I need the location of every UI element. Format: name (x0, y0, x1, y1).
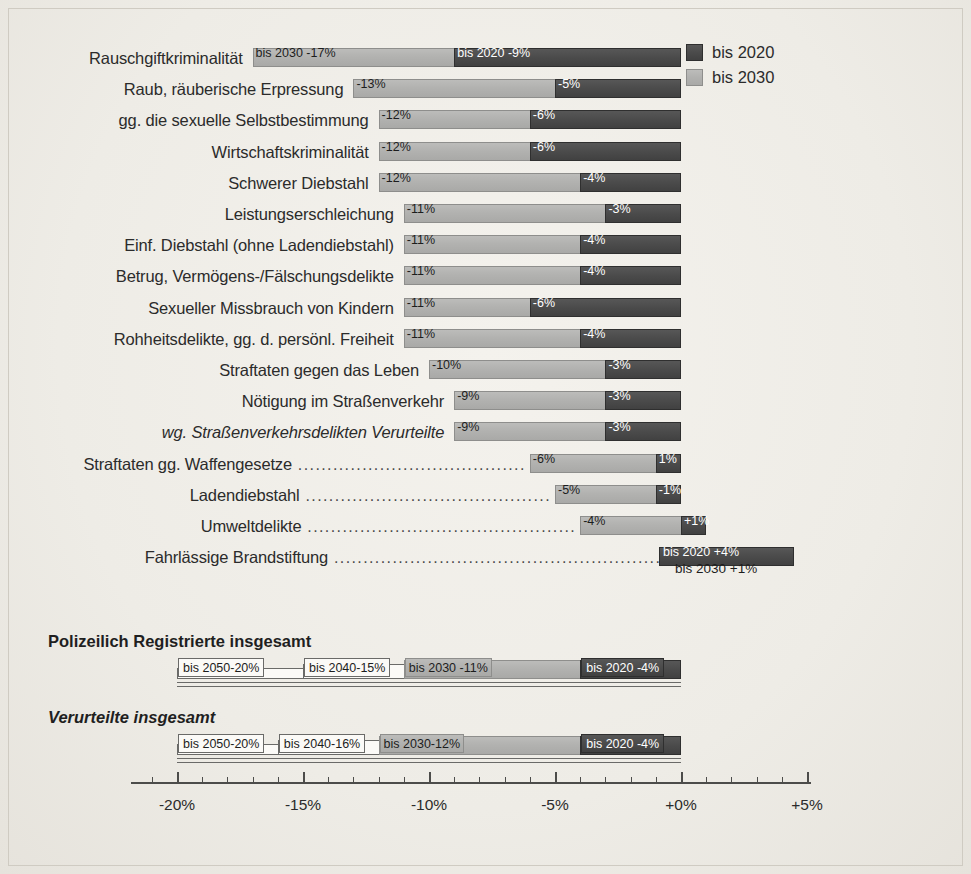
value-label-bis-2030: -13% (356, 75, 385, 94)
category-label-text: Leistungserschleichung (225, 205, 394, 223)
axis-tick-major (429, 772, 431, 783)
chart-row: Betrug, Vermögens-/Fälschungsdelikte-11%… (0, 262, 971, 290)
value-label-bis-2030: -11% (407, 294, 435, 313)
axis-tick-minor (202, 777, 203, 783)
axis-tick-major (807, 772, 809, 783)
category-label: Fahrlässige Brandstiftung ..............… (145, 543, 702, 571)
value-label-bis-2020: -3% (608, 387, 630, 406)
category-label: Rauschgiftkriminalität (89, 44, 243, 72)
axis-tick-label: -15% (285, 796, 321, 814)
axis-tick-minor (656, 777, 657, 783)
axis-tick-minor (454, 777, 455, 783)
axis-tick-minor (404, 777, 405, 783)
total-group-heading: Verurteilte insgesamt (48, 708, 215, 727)
category-label: Betrug, Vermögens-/Fälschungsdelikte (116, 262, 394, 290)
value-label-bis-2030: -9% (457, 418, 479, 437)
value-label-bis-2020: -6% (533, 138, 555, 157)
axis-tick-label: +0% (665, 796, 696, 814)
value-label-bis-2030: -12% (382, 138, 411, 157)
chart-row: Schwerer Diebstahl-12%-4% (0, 169, 971, 197)
category-label: Leistungserschleichung (225, 200, 394, 228)
value-label-bis-2020: bis 2020 -9% (457, 44, 530, 63)
chart-row: gg. die sexuelle Selbstbestimmung-12%-6% (0, 106, 971, 134)
category-label-text: Einf. Diebstahl (ohne Ladendiebstahl) (124, 236, 394, 254)
total-value-label-bis-2030: bis 2030-12% (380, 734, 464, 753)
value-label-bis-2030: -12% (382, 169, 411, 188)
value-label-bis-2030: -4% (583, 512, 605, 531)
category-label: Schwerer Diebstahl (228, 169, 368, 197)
category-label-text: Umweltdelikte (201, 517, 302, 535)
leader-dots: ........................................… (300, 487, 551, 504)
axis-tick-label: -5% (541, 796, 569, 814)
category-label: Einf. Diebstahl (ohne Ladendiebstahl) (124, 231, 394, 259)
total-baseline-rule (177, 686, 681, 687)
category-label: Sexueller Missbrauch von Kindern (148, 294, 394, 322)
value-label-bis-2020: -4% (583, 325, 605, 344)
chart-row: Umweltdelikte ..........................… (0, 512, 971, 540)
value-label-bis-2030: -11% (407, 231, 435, 250)
axis-tick-minor (353, 777, 354, 783)
leader-dots: ....................................... (292, 456, 526, 473)
value-label-bis-2020: -6% (533, 294, 555, 313)
chart-row: Fahrlässige Brandstiftung ..............… (0, 543, 971, 571)
category-label-text: Rauschgiftkriminalität (89, 49, 243, 67)
value-label-bis-2020: -3% (608, 356, 630, 375)
axis-tick-minor (605, 777, 606, 783)
value-label-bis-2020: -4% (583, 231, 605, 250)
leader-dots: ........................................… (328, 549, 702, 566)
category-label-text: Nötigung im Straßenverkehr (242, 392, 444, 410)
value-label-bis-2030: -9% (457, 387, 479, 406)
chart-row: Straftaten gg. Waffengesetze ...........… (0, 450, 971, 478)
value-label-bis-2020: bis 2020 +4% (663, 543, 739, 562)
chart-row: Nötigung im Straßenverkehr-9%-3% (0, 387, 971, 415)
axis-line (131, 782, 811, 784)
axis-tick-label: -20% (159, 796, 195, 814)
value-label-bis-2030: -10% (432, 356, 461, 375)
chart-plot-area: bis 2020 bis 2030 Rauschgiftkriminalität… (0, 0, 971, 874)
chart-row: Sexueller Missbrauch von Kindern-11%-6% (0, 294, 971, 322)
axis-tick-minor (757, 777, 758, 783)
category-label: wg. Straßenverkehrsdelikten Verurteilte (162, 418, 444, 446)
total-value-label-bis-2040: bis 2040-16% (279, 734, 365, 753)
category-label-text: Betrug, Vermögens-/Fälschungsdelikte (116, 267, 394, 285)
value-label-bis-2030: -11% (407, 200, 435, 219)
value-label-bis-2030: -6% (533, 450, 555, 469)
chart-row: Rohheitsdelikte, gg. d. persönl. Freihei… (0, 325, 971, 353)
category-label-text: Straftaten gegen das Leben (219, 361, 419, 379)
value-label-bis-2030: -11% (407, 325, 435, 344)
chart-row: Wirtschaftskriminalität-12%-6% (0, 138, 971, 166)
chart-row: Leistungserschleichung-11%-3% (0, 200, 971, 228)
category-label-text: Rohheitsdelikte, gg. d. persönl. Freihei… (114, 330, 394, 348)
category-label: gg. die sexuelle Selbstbestimmung (119, 106, 369, 134)
value-label-bis-2020: -3% (608, 200, 630, 219)
chart-x-axis: -20%-15%-10%-5%+0%+5% (0, 782, 971, 784)
axis-tick-minor (328, 777, 329, 783)
total-value-label-bis-2020: bis 2020 -4% (581, 658, 664, 677)
category-label: Rohheitsdelikte, gg. d. persönl. Freihei… (114, 325, 394, 353)
category-label-text: Raub, räuberische Erpressung (124, 80, 344, 98)
axis-tick-minor (253, 777, 254, 783)
axis-tick-minor (782, 777, 783, 783)
total-group-heading: Polizeilich Registrierte insgesamt (48, 632, 311, 651)
value-label-bis-2020: -3% (608, 418, 630, 437)
value-label-bis-2030: -11% (407, 262, 435, 281)
axis-tick-minor (379, 777, 380, 783)
axis-tick-minor (505, 777, 506, 783)
value-label-bis-2020: -4% (583, 262, 605, 281)
axis-tick-minor (580, 777, 581, 783)
value-label-bis-2020: -5% (558, 75, 580, 94)
axis-tick-minor (706, 777, 707, 783)
axis-tick-label: -10% (411, 796, 447, 814)
axis-tick-minor (479, 777, 480, 783)
category-label: Ladendiebstahl .........................… (190, 481, 551, 509)
axis-tick-label: +5% (791, 796, 822, 814)
total-value-label-bis-2040: bis 2040-15% (304, 658, 390, 677)
category-label: Straftaten gegen das Leben (219, 356, 419, 384)
category-label: Raub, räuberische Erpressung (124, 75, 344, 103)
category-label-text: Ladendiebstahl (190, 486, 300, 504)
axis-tick-minor (731, 777, 732, 783)
category-label: Umweltdelikte ..........................… (201, 512, 576, 540)
category-label: Straftaten gg. Waffengesetze ...........… (83, 450, 525, 478)
category-label-text: Schwerer Diebstahl (228, 174, 368, 192)
chart-row: wg. Straßenverkehrsdelikten Verurteilte-… (0, 418, 971, 446)
